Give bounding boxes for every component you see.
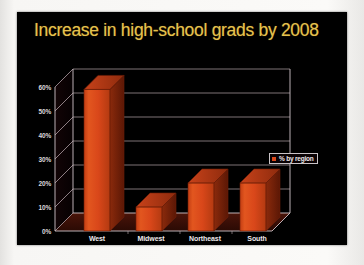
slide-frame: Increase in high-school grads by 2008: [0, 0, 364, 265]
x-axis-category-labels: West Midwest Northeast South: [17, 12, 347, 245]
x-label-west: West: [89, 235, 105, 242]
legend-swatch-icon: [272, 157, 276, 161]
x-label-south: South: [247, 235, 266, 242]
chart-legend: % by region: [269, 153, 318, 164]
chart-card: Increase in high-school grads by 2008: [17, 12, 347, 245]
x-label-northeast: Northeast: [189, 235, 221, 242]
legend-label: % by region: [279, 155, 314, 162]
x-label-midwest: Midwest: [138, 235, 165, 242]
